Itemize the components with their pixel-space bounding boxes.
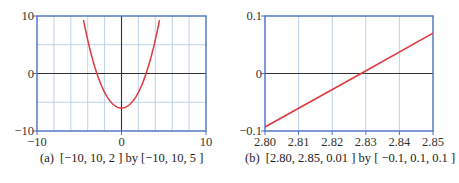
y-tick-label: 0 bbox=[256, 67, 262, 81]
chart-panel-a: −10010100−10 (a) [−10, 10, 2 ] by [−10, … bbox=[0, 0, 230, 183]
x-tick-label: 2.85 bbox=[422, 135, 444, 149]
x-tick-label: 0 bbox=[118, 135, 124, 149]
x-tick-label: 2.81 bbox=[288, 135, 310, 149]
chart-a-caption: (a) [−10, 10, 2 ] by [−10, 10, 5 ] bbox=[40, 151, 203, 166]
x-tick-label: 2.82 bbox=[321, 135, 343, 149]
x-tick-label: 2.83 bbox=[355, 135, 377, 149]
chart-panel-b: 2.802.812.822.832.842.850.10−0.1 (b) [2.… bbox=[230, 0, 459, 183]
chart-b-caption: (b) [2.80, 2.85, 0.01 ] by [ −0.1, 0.1, … bbox=[245, 151, 455, 166]
y-tick-label: 0.1 bbox=[246, 9, 262, 23]
x-tick-label: 10 bbox=[200, 135, 213, 149]
y-tick-label: 0 bbox=[28, 67, 34, 81]
y-tick-label: 10 bbox=[22, 9, 35, 23]
data-curve bbox=[265, 33, 433, 127]
x-tick-label: 2.84 bbox=[388, 135, 411, 149]
y-tick-label: −0.1 bbox=[239, 124, 262, 138]
y-tick-label: −10 bbox=[14, 124, 34, 138]
